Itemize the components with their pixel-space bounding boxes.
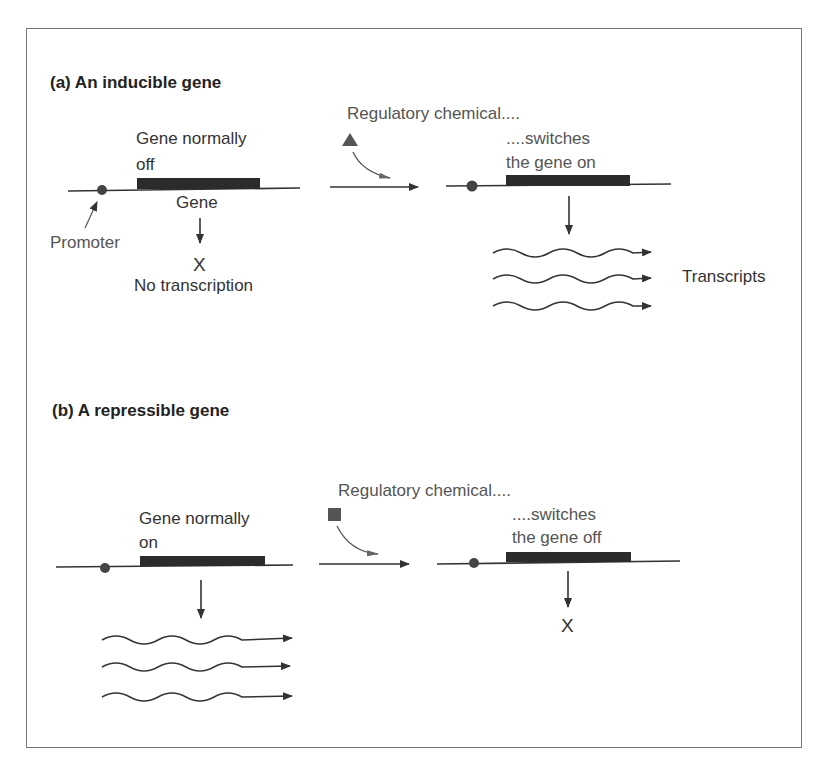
panel-b-gene-off xyxy=(437,552,680,607)
effect-label: ....switches xyxy=(506,129,590,149)
panel-a-gene-on xyxy=(446,175,671,310)
transcript-wave-icon xyxy=(493,275,651,283)
gene-block xyxy=(140,556,265,566)
panel-a-title: (a) An inducible gene xyxy=(50,73,221,93)
triangle-regulator-icon xyxy=(342,133,358,146)
curved-arrow-icon xyxy=(337,526,378,554)
panel-b-regulator xyxy=(319,508,409,564)
gene-state-label: Gene normally xyxy=(136,129,247,149)
effect-label: ....switches xyxy=(512,505,596,525)
square-regulator-icon xyxy=(328,508,341,521)
promoter-dot-icon xyxy=(469,558,479,568)
panel-b-gene-on xyxy=(56,556,293,701)
gene-block xyxy=(506,552,631,562)
transcript-wave-icon xyxy=(102,693,292,701)
promoter-dot-icon xyxy=(97,185,107,195)
regulator-label: Regulatory chemical.... xyxy=(347,104,520,124)
transcript-wave-icon xyxy=(493,302,651,310)
regulator-label: Regulatory chemical.... xyxy=(338,481,511,501)
gene-block xyxy=(506,175,630,186)
gene-block xyxy=(137,178,260,189)
transcript-wave-icon xyxy=(493,249,651,257)
no-transcription-x-icon: X xyxy=(561,616,574,636)
effect-label-2: the gene off xyxy=(512,528,602,548)
promoter-label: Promoter xyxy=(50,233,120,253)
curved-arrow-icon xyxy=(353,152,390,178)
transcript-wave-icon xyxy=(102,636,292,644)
panel-a-regulator xyxy=(330,133,418,187)
effect-label-2: the gene on xyxy=(506,153,596,173)
gene-state-label: Gene normally xyxy=(139,509,250,529)
no-transcription-label: No transcription xyxy=(134,276,253,296)
gene-state-label-2: off xyxy=(136,155,155,175)
promoter-dot-icon xyxy=(467,181,478,192)
no-transcription-x-icon: X xyxy=(193,255,206,275)
gene-label: Gene xyxy=(176,193,218,213)
panel-b-title: (b) A repressible gene xyxy=(52,401,229,421)
gene-state-label-2: on xyxy=(139,533,158,553)
promoter-dot-icon xyxy=(100,563,110,573)
transcripts-label: Transcripts xyxy=(682,267,765,287)
transcript-wave-icon xyxy=(102,663,290,671)
promoter-pointer-arrow-icon xyxy=(85,202,97,228)
